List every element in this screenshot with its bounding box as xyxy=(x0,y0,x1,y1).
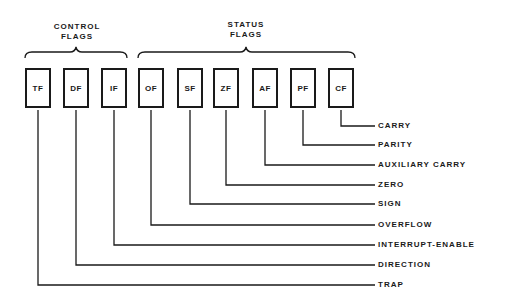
flag-abbr: IF xyxy=(110,84,118,93)
flag-abbr: AF xyxy=(259,84,271,93)
flag-abbr: CF xyxy=(335,84,347,93)
label-direction: DIRECTION xyxy=(378,260,431,270)
flag-abbr: PF xyxy=(297,84,308,93)
label-interrupt-enable: INTERRUPT-ENABLE xyxy=(378,240,475,250)
label-trap: TRAP xyxy=(378,280,404,290)
flag-box-zf: ZF xyxy=(213,68,239,108)
group-title-line: FLAGS xyxy=(46,32,108,42)
group-title-line: CONTROL xyxy=(46,22,108,32)
flag-box-df: DF xyxy=(63,68,89,108)
control-flags-title: CONTROL FLAGS xyxy=(46,22,108,42)
flag-box-cf: CF xyxy=(328,68,354,108)
flag-box-af: AF xyxy=(252,68,278,108)
label-parity: PARITY xyxy=(378,140,413,150)
flag-box-of: OF xyxy=(138,68,164,108)
label-overflow: OVERFLOW xyxy=(378,220,432,230)
flag-abbr: ZF xyxy=(221,84,232,93)
flag-box-sf: SF xyxy=(177,68,203,108)
flag-abbr: DF xyxy=(70,84,82,93)
flag-box-tf: TF xyxy=(25,68,51,108)
connector-lines xyxy=(0,0,513,306)
flag-abbr: OF xyxy=(145,84,157,93)
group-title-line: STATUS xyxy=(214,20,278,30)
status-flags-brace xyxy=(138,47,355,58)
label-sign: SIGN xyxy=(378,199,402,209)
flag-abbr: SF xyxy=(184,84,195,93)
flag-abbr: TF xyxy=(33,84,44,93)
label-carry: CARRY xyxy=(378,121,411,131)
group-title-line: FLAGS xyxy=(214,30,278,40)
control-flags-brace xyxy=(25,47,127,58)
label-auxiliary-carry: AUXILIARY CARRY xyxy=(378,160,466,170)
flag-box-if: IF xyxy=(101,68,127,108)
flag-box-pf: PF xyxy=(290,68,316,108)
label-zero: ZERO xyxy=(378,180,404,190)
status-flags-title: STATUS FLAGS xyxy=(214,20,278,40)
